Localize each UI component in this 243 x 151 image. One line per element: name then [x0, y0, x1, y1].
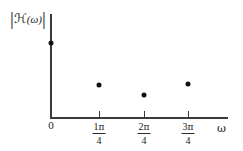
magnitude-spectrum-plot: |ℋ(ω)| 0 1π 4 2π 4 3π 4 ω	[0, 0, 243, 151]
y-label-symbol: ℋ	[14, 11, 27, 26]
y-axis-line	[50, 14, 52, 119]
x-axis-line	[50, 117, 228, 119]
pi-symbol-icon: π	[144, 122, 150, 132]
pi-symbol-icon: π	[99, 122, 105, 132]
data-point	[142, 93, 147, 98]
x-tick-mark-3	[188, 111, 189, 118]
pi-symbol-icon: π	[188, 122, 194, 132]
x-tick-label-3-denominator: 4	[182, 135, 195, 147]
x-tick-mark-2	[144, 111, 145, 118]
x-tick-label-3-numerator: 3π	[182, 121, 195, 133]
x-axis-label: ω	[217, 122, 226, 135]
x-tick-label-3: 3π 4	[182, 121, 195, 146]
x-tick-label-zero: 0	[48, 120, 54, 132]
data-point	[49, 41, 54, 46]
x-tick-label-1-denominator: 4	[93, 135, 106, 147]
y-label-close-bar: |	[42, 8, 46, 29]
x-tick-label-2-denominator: 4	[138, 135, 151, 147]
data-point	[186, 82, 191, 87]
x-tick-label-1-numerator: 1π	[93, 121, 106, 133]
data-point	[97, 83, 102, 88]
x-tick-label-1: 1π 4	[93, 121, 106, 146]
x-tick-mark-1	[99, 111, 100, 118]
x-tick-label-2: 2π 4	[138, 121, 151, 146]
x-tick-label-2-numerator: 2π	[138, 121, 151, 133]
y-axis-label: |ℋ(ω)|	[10, 9, 46, 28]
y-label-argument: (ω)	[27, 13, 42, 25]
